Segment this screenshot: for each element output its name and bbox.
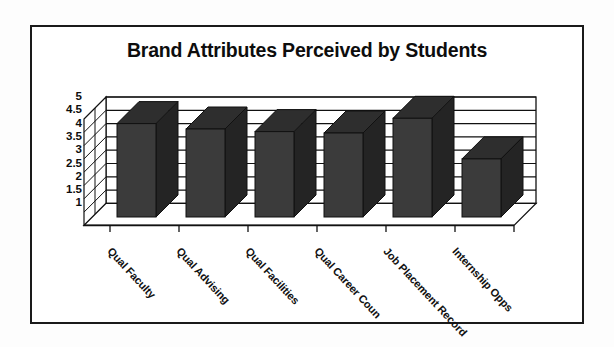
y-tick-2.5: 2.5: [66, 158, 82, 170]
x-label-qual-advising: Qual Advising: [174, 245, 232, 306]
bar-job-placement-record: [393, 96, 454, 217]
x-label-qual-facilities: Qual Facilities: [243, 245, 302, 307]
y-tick-4: 4: [76, 118, 82, 130]
plot-area: 5 4.5 4 3.5 3 2.5 2 1.5 1: [84, 85, 560, 245]
bar-qual-advising: [186, 107, 247, 217]
y-tick-5: 5: [76, 91, 82, 103]
y-tick-1: 1: [76, 198, 82, 210]
x-label-internship-opps: Internship Opps: [450, 245, 515, 314]
bar-qual-faculty: [117, 102, 178, 217]
chart-title: Brand Attributes Perceived by Students: [32, 39, 582, 62]
x-axis-labels: Qual Faculty Qual Advising Qual Faciliti…: [84, 241, 584, 347]
page-background: Brand Attributes Perceived by Students 5…: [0, 0, 614, 347]
chart-3d-scene: [84, 85, 560, 245]
y-tick-4.5: 4.5: [66, 105, 82, 117]
y-tick-3.5: 3.5: [66, 131, 82, 143]
bar-qual-career-coun: [324, 111, 385, 217]
y-tick-1.5: 1.5: [66, 184, 82, 196]
x-label-qual-faculty: Qual Faculty: [105, 245, 158, 301]
y-axis-labels: 5 4.5 4 3.5 3 2.5 2 1.5 1: [50, 85, 82, 245]
x-label-qual-career-coun: Qual Career Coun: [312, 245, 383, 320]
chart-frame: Brand Attributes Perceived by Students 5…: [30, 25, 584, 324]
y-tick-3: 3: [76, 144, 82, 156]
x-axis-ticks: [110, 225, 514, 232]
y-tick-2: 2: [76, 171, 82, 183]
bar-qual-facilities: [255, 110, 316, 217]
